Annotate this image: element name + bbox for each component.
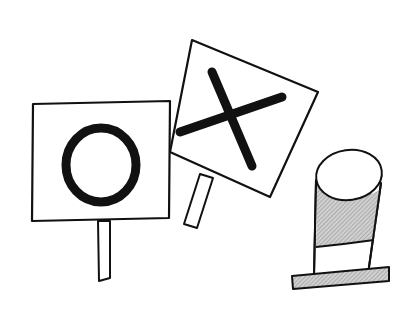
top-hat [292,146,389,289]
x-sign [170,40,318,228]
illustration-svg [0,0,414,319]
o-sign [32,101,170,281]
illustration-canvas [0,0,414,319]
